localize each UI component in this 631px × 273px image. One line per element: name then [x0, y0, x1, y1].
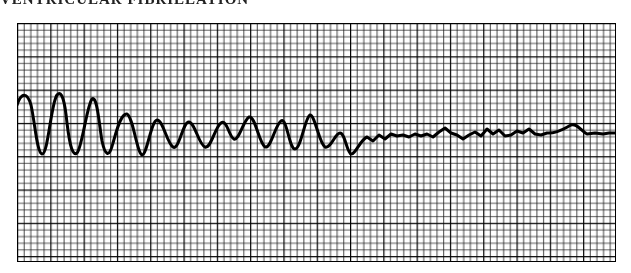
ecg-strip — [17, 23, 616, 262]
ecg-grid — [17, 23, 616, 262]
ecg-grid-and-trace — [17, 23, 616, 262]
strip-title: VENTRICULAR FIBRILLATION — [0, 0, 249, 5]
